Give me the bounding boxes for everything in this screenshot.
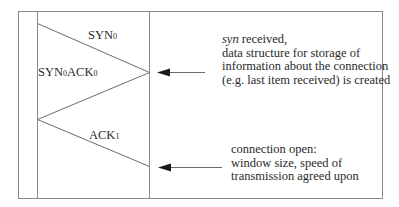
note-line: window size, speed of — [231, 157, 359, 171]
note-line: transmission agreed upon — [231, 170, 359, 184]
syn-label: SYN0 — [88, 29, 117, 43]
arrow-left-icon — [158, 164, 222, 172]
ack-message-line — [38, 120, 150, 167]
synack-label: SYN0ACK0 — [38, 66, 97, 80]
note-line: connection open: — [231, 143, 359, 157]
arrow-left-icon — [157, 69, 205, 77]
note-line: information about the connection — [222, 60, 390, 74]
syn-received-note: syn received, data structure for storage… — [222, 33, 390, 87]
ack-label: ACK1 — [89, 129, 119, 143]
note-line: data structure for storage of — [222, 47, 390, 61]
connection-open-note: connection open: window size, speed of t… — [231, 143, 359, 184]
note-line: (e.g. last item received) is created — [222, 74, 390, 88]
note-line: syn received, — [222, 33, 390, 47]
